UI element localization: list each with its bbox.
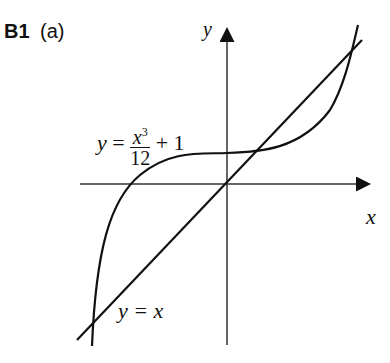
x-axis-label: x — [366, 204, 376, 230]
line-y-equals-x — [77, 40, 362, 340]
cubic-label: y = x3 12 + 1 — [97, 122, 185, 168]
graph — [0, 0, 390, 363]
line-label: y = x — [118, 298, 163, 324]
y-axis-label: y — [203, 18, 212, 41]
